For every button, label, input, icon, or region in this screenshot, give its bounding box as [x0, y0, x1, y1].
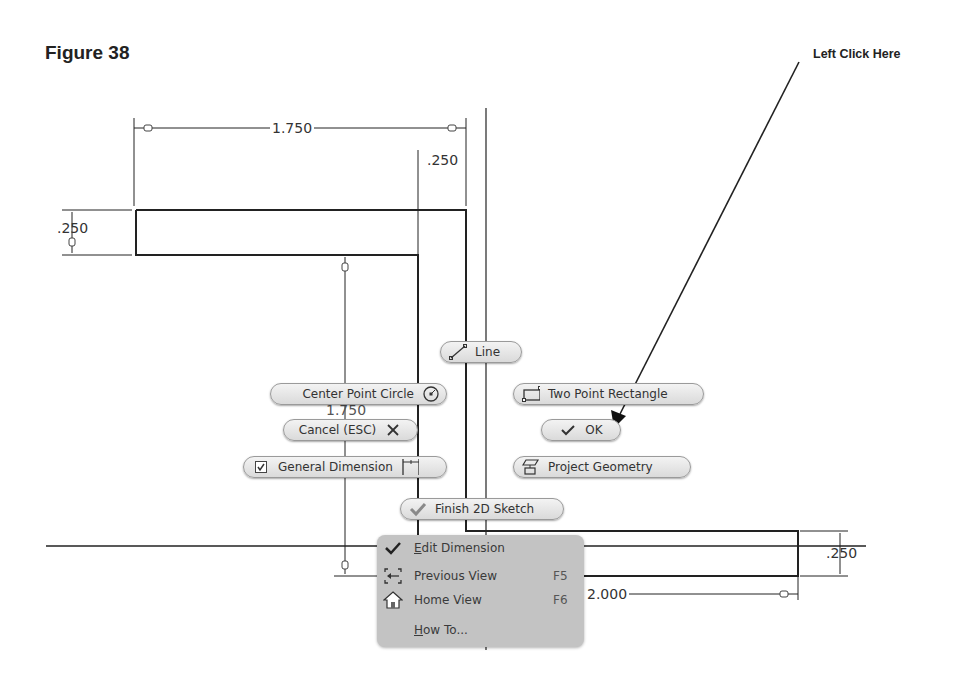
project-geometry-button[interactable]: Project Geometry	[513, 456, 691, 478]
check-icon	[409, 501, 427, 517]
dimension-left-height[interactable]: .250	[57, 220, 88, 236]
menu-item-shortcut: F5	[553, 569, 568, 583]
checkbox-icon[interactable]	[252, 459, 270, 475]
menu-item-mnemonic: H	[414, 623, 423, 637]
general-dimension-button[interactable]: General Dimension	[243, 456, 447, 478]
dimension-icon	[401, 459, 419, 475]
menu-item-home-view[interactable]: Home View F6	[377, 589, 584, 611]
check-icon	[383, 539, 403, 557]
two-point-rectangle-label: Two Point Rectangle	[548, 387, 668, 401]
dimension-top-width[interactable]: 1.750	[270, 120, 314, 136]
dimension-bottom-width[interactable]: 2.000	[585, 586, 629, 602]
close-icon	[384, 422, 402, 438]
menu-item-label: Previous View	[414, 569, 497, 583]
check-icon	[559, 422, 577, 438]
menu-item-label: Home View	[414, 593, 482, 607]
menu-item-previous-view[interactable]: Previous View F5	[377, 565, 584, 587]
general-dimension-label: General Dimension	[278, 460, 393, 474]
ok-label: OK	[585, 423, 602, 437]
menu-item-mnemonic: E	[414, 541, 422, 555]
ok-button[interactable]: OK	[541, 419, 621, 441]
dimension-right-height[interactable]: .250	[826, 545, 857, 561]
line-button[interactable]: Line	[440, 341, 522, 363]
previous-view-icon	[383, 567, 403, 585]
center-point-circle-label: Center Point Circle	[302, 387, 414, 401]
two-point-rectangle-button[interactable]: Two Point Rectangle	[513, 383, 704, 405]
menu-item-shortcut: F6	[553, 593, 568, 607]
context-menu: Edit Dimension Previous View F5 Home Vie…	[377, 535, 584, 647]
cancel-label: Cancel (ESC)	[299, 423, 376, 437]
center-point-circle-button[interactable]: Center Point Circle	[270, 383, 447, 405]
dimension-top-offset[interactable]: .250	[425, 152, 460, 168]
circle-icon	[422, 386, 440, 402]
cancel-button[interactable]: Cancel (ESC)	[283, 419, 418, 441]
menu-item-edit-dimension[interactable]: Edit Dimension	[377, 537, 584, 559]
menu-item-label: dit Dimension	[422, 541, 505, 555]
line-label: Line	[475, 345, 500, 359]
finish-sketch-label: Finish 2D Sketch	[435, 502, 534, 516]
project-geometry-label: Project Geometry	[548, 460, 653, 474]
menu-item-label: ow To...	[423, 623, 468, 637]
project-geometry-icon	[522, 459, 540, 475]
rectangle-icon	[522, 386, 540, 402]
finish-sketch-button[interactable]: Finish 2D Sketch	[400, 498, 564, 520]
home-icon	[383, 591, 403, 609]
menu-item-how-to[interactable]: How To...	[377, 619, 584, 641]
line-icon	[449, 344, 467, 360]
